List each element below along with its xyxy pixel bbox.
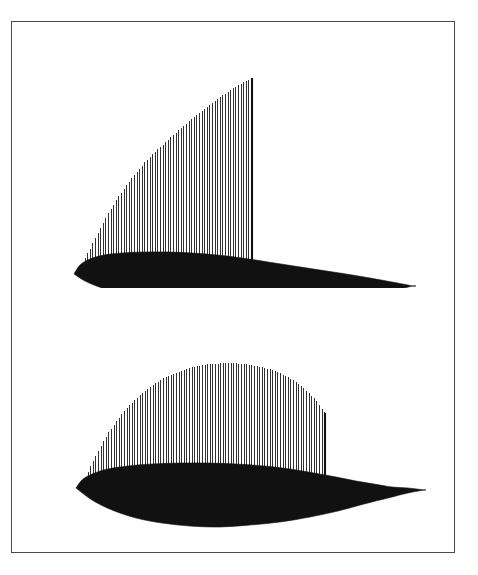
figure-lower — [12, 288, 454, 552]
figure-page — [0, 0, 478, 575]
lower-pressure-diagram — [12, 288, 454, 552]
figure-upper — [12, 22, 454, 288]
pressure-hatch-group — [85, 78, 251, 262]
upper-pressure-diagram — [12, 22, 454, 288]
pressure-hatch-group — [88, 363, 325, 477]
airfoil-upper — [74, 252, 416, 288]
airfoil-lower — [76, 463, 426, 527]
plate-frame — [11, 21, 455, 553]
